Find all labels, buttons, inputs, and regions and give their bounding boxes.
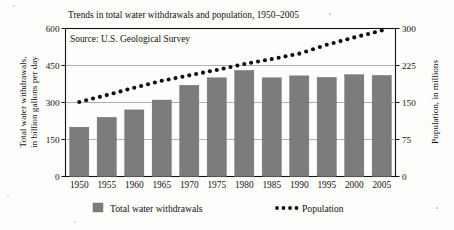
x-tick-1995: 1995 — [317, 180, 336, 190]
bar-1985 — [262, 78, 281, 177]
left-axis-label-line1: Total water withdrawals, — [18, 57, 28, 148]
left-axis-label-line2: in billion gallons per day — [29, 56, 39, 148]
legend-label-line: Population — [302, 203, 344, 214]
left-tick-150: 150 — [46, 135, 60, 145]
bar-1990 — [290, 76, 309, 177]
bar-1995 — [317, 77, 336, 176]
x-tick-1990: 1990 — [290, 180, 309, 190]
bar-1950 — [70, 127, 89, 176]
left-axis-ticks: 0150300450600 — [46, 24, 66, 182]
left-tick-0: 0 — [55, 172, 60, 182]
bar-1970 — [180, 85, 199, 176]
x-tick-1950: 1950 — [70, 180, 89, 190]
x-tick-1960: 1960 — [125, 180, 144, 190]
right-tick-300: 300 — [402, 24, 416, 34]
right-tick-0: 0 — [402, 172, 407, 182]
x-axis-ticks: 1950195519601965197019751980198519901995… — [70, 180, 392, 190]
x-tick-1985: 1985 — [262, 180, 281, 190]
chart-figure: Trends in total water withdrawals and po… — [0, 0, 454, 230]
right-tick-225: 225 — [402, 61, 416, 71]
bar-2000 — [345, 75, 364, 177]
x-tick-1970: 1970 — [180, 180, 199, 190]
bar-1955 — [97, 117, 116, 176]
x-tick-2000: 2000 — [345, 180, 364, 190]
bar-series — [70, 70, 392, 176]
legend: Total water withdrawals Population — [93, 203, 344, 214]
right-tick-75: 75 — [402, 135, 412, 145]
legend-swatch-bars — [93, 203, 103, 212]
x-tick-1965: 1965 — [152, 180, 171, 190]
left-tick-300: 300 — [46, 98, 60, 108]
right-axis-label: Population, in millions — [430, 60, 440, 144]
x-tick-2005: 2005 — [372, 180, 391, 190]
right-tick-150: 150 — [402, 98, 416, 108]
left-tick-600: 600 — [46, 24, 60, 34]
legend-label-bars: Total water withdrawals — [110, 203, 203, 214]
right-axis-ticks: 075150225300 — [396, 24, 417, 182]
source-note: Source: U.S. Geological Survey — [70, 34, 190, 44]
bar-1975 — [207, 78, 226, 177]
chart-title: Trends in total water withdrawals and po… — [68, 10, 299, 20]
x-tick-1955: 1955 — [97, 180, 116, 190]
bar-1960 — [125, 110, 144, 177]
x-tick-1975: 1975 — [207, 180, 226, 190]
left-tick-450: 450 — [46, 61, 60, 71]
legend-swatch-line — [275, 206, 298, 210]
chart-svg: Trends in total water withdrawals and po… — [0, 0, 454, 230]
bar-1965 — [152, 100, 171, 176]
bar-2005 — [372, 75, 391, 176]
x-tick-1980: 1980 — [235, 180, 254, 190]
bar-1980 — [235, 70, 254, 176]
